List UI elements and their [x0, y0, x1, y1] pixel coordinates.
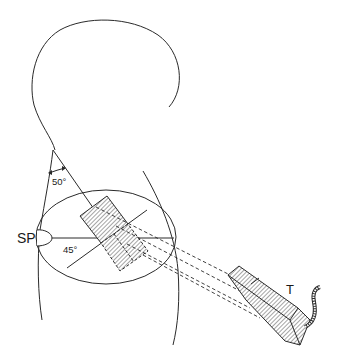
neck-angle-label: 50° — [52, 177, 66, 187]
sp-label: SP — [17, 231, 36, 245]
transducer — [228, 266, 320, 345]
probe-angle-label: 45° — [63, 245, 77, 255]
transducer-label: T — [286, 283, 294, 296]
head-outline — [32, 20, 179, 150]
diagram-svg — [0, 0, 338, 364]
diagram-canvas: SP T 50° 45° — [0, 0, 338, 364]
